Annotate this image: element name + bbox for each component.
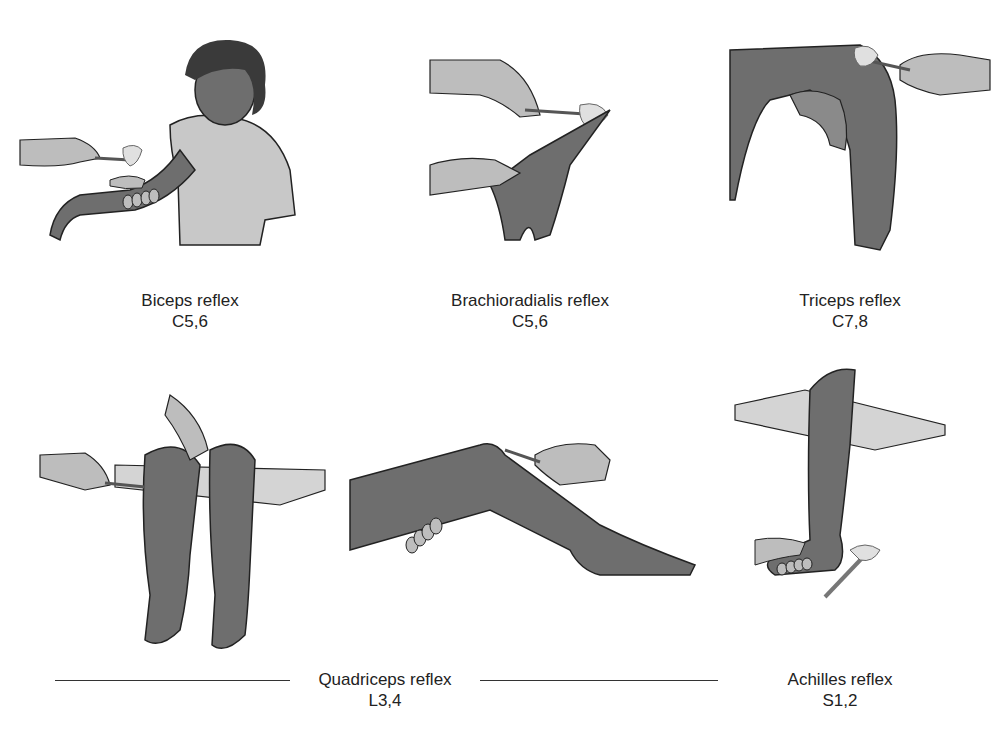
caption-achilles-roots: S1,2 bbox=[760, 690, 920, 711]
caption-achilles: Achilles reflex S1,2 bbox=[760, 669, 920, 711]
caption-biceps: Biceps reflex C5,6 bbox=[80, 290, 300, 332]
caption-triceps: Triceps reflex C7,8 bbox=[750, 290, 950, 332]
caption-brachioradialis-roots: C5,6 bbox=[410, 311, 650, 332]
triceps-illustration bbox=[730, 40, 990, 260]
caption-biceps-label: Biceps reflex bbox=[80, 290, 300, 311]
caption-brachioradialis: Brachioradialis reflex C5,6 bbox=[410, 290, 650, 332]
caption-biceps-roots: C5,6 bbox=[80, 311, 300, 332]
caption-quadriceps: Quadriceps reflex L3,4 bbox=[290, 669, 480, 711]
achilles-illustration bbox=[735, 365, 950, 605]
quadriceps-bracket-left bbox=[55, 680, 290, 681]
panel-biceps bbox=[20, 30, 320, 250]
brachioradialis-illustration bbox=[420, 55, 620, 255]
quadriceps-bracket-right bbox=[480, 680, 718, 681]
caption-triceps-label: Triceps reflex bbox=[750, 290, 950, 311]
panel-brachioradialis bbox=[420, 55, 620, 255]
biceps-illustration bbox=[20, 30, 320, 250]
caption-triceps-roots: C7,8 bbox=[750, 311, 950, 332]
panel-quadriceps-seated bbox=[40, 395, 330, 660]
quadriceps-seated-illustration bbox=[40, 395, 330, 660]
caption-quadriceps-label: Quadriceps reflex bbox=[290, 669, 480, 690]
panel-triceps bbox=[730, 40, 990, 260]
quadriceps-supine-illustration bbox=[350, 430, 705, 580]
panel-achilles bbox=[735, 365, 950, 605]
panel-quadriceps-supine bbox=[350, 430, 705, 580]
caption-brachioradialis-label: Brachioradialis reflex bbox=[410, 290, 650, 311]
caption-quadriceps-roots: L3,4 bbox=[290, 690, 480, 711]
caption-achilles-label: Achilles reflex bbox=[760, 669, 920, 690]
